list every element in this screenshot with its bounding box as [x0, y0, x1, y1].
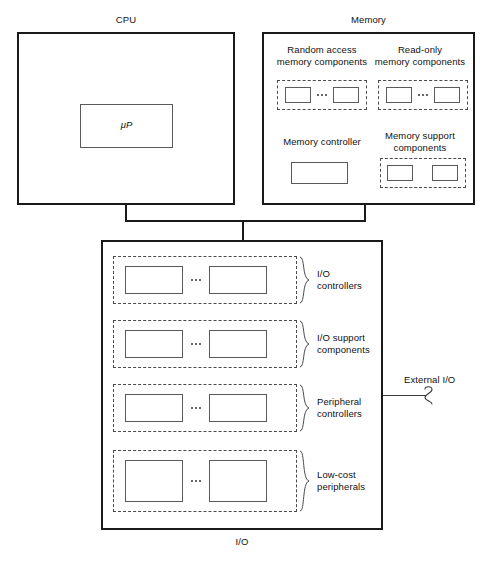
- io-controllers-label: I/O controllers: [317, 268, 389, 291]
- low-cost-peripherals-brace: [299, 450, 311, 512]
- io-support-components-ellipsis: [185, 330, 207, 358]
- peripheral-controllers-chip-2: [209, 394, 267, 422]
- low-cost-peripherals-ellipsis: [185, 460, 207, 502]
- peripheral-controllers-brace: [299, 384, 311, 432]
- rom-group-label: Read-only memory components: [370, 44, 470, 67]
- low-cost-peripherals-chip-1: [125, 460, 183, 502]
- low-cost-peripherals-chip-2: [209, 460, 267, 502]
- io-controllers-chip-2: [209, 266, 267, 294]
- ram-chip-1: [285, 87, 311, 103]
- rom-chip-2: [434, 87, 460, 103]
- memory-title: Memory: [262, 14, 475, 26]
- bus-stub-io: [242, 220, 244, 240]
- ram-group-label: Random access memory components: [272, 44, 372, 67]
- memory-support-group-label: Memory support components: [370, 130, 470, 153]
- peripheral-controllers-label: Peripheral controllers: [317, 396, 389, 419]
- io-support-components-label: I/O support components: [317, 332, 395, 355]
- peripheral-controllers-ellipsis: [185, 394, 207, 422]
- ram-chip-2: [333, 87, 359, 103]
- ram-ellipsis: [313, 87, 331, 103]
- io-controllers-ellipsis: [185, 266, 207, 294]
- io-controllers-chip-1: [125, 266, 183, 294]
- low-cost-peripherals-label: Low-cost peripherals: [317, 469, 389, 492]
- external-io-label: External I/O: [404, 374, 484, 386]
- memory-controller-box: [291, 162, 348, 184]
- system-architecture-diagram: CPU μP Memory Random access memory compo…: [0, 0, 491, 562]
- bus-horizontal-bar: [125, 220, 366, 222]
- microprocessor-label: μP: [80, 119, 173, 131]
- memory-support-chip-2: [432, 165, 458, 181]
- io-controllers-brace: [299, 256, 311, 304]
- peripheral-controllers-chip-1: [125, 394, 183, 422]
- io-support-components-brace: [299, 320, 311, 368]
- memory-controller-label: Memory controller: [272, 136, 372, 148]
- io-support-components-chip-2: [209, 330, 267, 358]
- rom-chip-1: [386, 87, 412, 103]
- io-title: I/O: [101, 536, 383, 548]
- io-support-components-chip-1: [125, 330, 183, 358]
- rom-ellipsis: [414, 87, 432, 103]
- cpu-title: CPU: [17, 14, 235, 26]
- memory-support-chip-1: [387, 165, 413, 181]
- external-io-line: [383, 395, 426, 396]
- external-io-break-icon: [423, 386, 437, 406]
